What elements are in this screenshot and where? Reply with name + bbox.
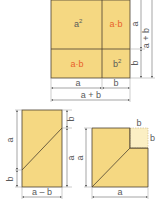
- dim-label-right-b: b: [66, 116, 76, 121]
- dim-label-right-b: b: [150, 133, 155, 143]
- cell-ab-bottom: a·b: [70, 59, 83, 69]
- dim-label-left-b: b: [5, 176, 15, 181]
- outer-square: [51, 0, 130, 78]
- dim-label-bottom-a: a: [117, 187, 122, 197]
- dim-label-right-a: a: [130, 21, 140, 26]
- dim-label-left-a: a: [75, 155, 85, 160]
- dim-label-bottom-total: a + b: [81, 90, 101, 100]
- dim-label-top-b: b: [136, 118, 141, 128]
- dim-label-right-total: a + b: [141, 28, 151, 48]
- dim-label-bottom-a: a: [75, 78, 80, 88]
- bottom-left-figure: a b b a a – b: [5, 110, 76, 199]
- dim-label-right-b: b: [130, 60, 140, 65]
- bottom-right-figure: b b a a: [75, 118, 155, 199]
- top-figure: a2 a·b a·b b2 a b a + b a b a + b: [51, 0, 155, 102]
- dim-label-bottom: a – b: [32, 187, 52, 197]
- dim-label-bottom-b: b: [113, 78, 118, 88]
- cell-ab-top: a·b: [109, 19, 122, 29]
- dim-label-left-a: a: [5, 137, 15, 142]
- removed-b-square: [130, 128, 148, 148]
- binomial-diagram: a2 a·b a·b b2 a b a + b a b a + b a b: [0, 0, 163, 210]
